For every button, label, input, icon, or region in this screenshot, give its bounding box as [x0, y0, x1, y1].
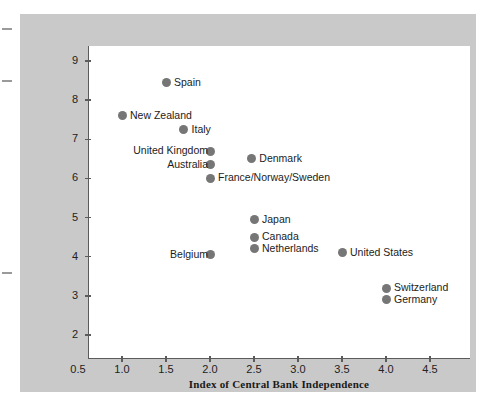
y-axis-tick-mark	[85, 99, 91, 101]
x-axis-tick-mark	[341, 356, 343, 362]
x-axis-title: Index of Central Bank Independence	[88, 378, 470, 390]
y-axis-tick-label: 5	[60, 211, 78, 223]
data-point-label: Belgium	[170, 249, 208, 260]
data-point[interactable]	[206, 174, 215, 183]
x-axis-tick-label: 1.0	[106, 363, 138, 375]
x-axis-tick-mark	[121, 356, 123, 362]
x-axis-tick-label: 4.0	[370, 363, 402, 375]
x-axis-tick-label: 2.5	[238, 363, 270, 375]
chart-figure: Average inflation(percent per year) Inde…	[0, 0, 496, 406]
data-point[interactable]	[250, 215, 259, 224]
data-point[interactable]	[382, 295, 391, 304]
y-axis-tick-label: 7	[60, 132, 78, 144]
page-mark-middle	[2, 80, 12, 82]
data-point-label: Switzerland	[394, 282, 448, 293]
data-point-label: United States	[350, 247, 413, 258]
y-axis-tick-label: 4	[60, 250, 78, 262]
y-axis-tick-mark	[85, 217, 91, 219]
x-axis-tick-mark	[209, 356, 211, 362]
x-axis-tick-label: 1.5	[150, 363, 182, 375]
data-point-label: Japan	[262, 214, 291, 225]
y-axis-tick-label: 6	[60, 171, 78, 183]
data-point[interactable]	[382, 284, 391, 293]
y-axis-tick-label: 9	[60, 54, 78, 66]
data-point[interactable]	[118, 111, 127, 120]
y-axis-tick-mark	[85, 139, 91, 141]
data-point[interactable]	[250, 233, 259, 242]
x-axis-tick-mark	[429, 356, 431, 362]
data-point-label: Italy	[192, 124, 211, 135]
y-axis-tick-mark	[85, 334, 91, 336]
x-axis-tick-label: 0.5	[62, 363, 94, 375]
data-point-label: France/Norway/Sweden	[218, 172, 330, 183]
y-axis-tick-label: 3	[60, 289, 78, 301]
y-axis-tick-mark	[85, 60, 91, 62]
y-axis-tick-label: 2	[60, 328, 78, 340]
chart-panel: Average inflation(percent per year) Inde…	[20, 14, 476, 392]
data-point[interactable]	[250, 244, 259, 253]
data-point[interactable]	[338, 248, 347, 257]
data-point-label: Spain	[174, 77, 201, 88]
x-axis-tick-label: 4.5	[414, 363, 446, 375]
data-point-label: New Zealand	[130, 110, 192, 121]
x-axis-tick-mark	[297, 356, 299, 362]
x-axis-tick-label: 2.0	[194, 363, 226, 375]
x-axis-tick-mark	[385, 356, 387, 362]
data-point-label: Canada	[262, 231, 299, 242]
page-mark-bottom	[2, 272, 12, 274]
data-point-label: United Kingdom	[133, 145, 208, 156]
data-point-label: Australia	[167, 159, 208, 170]
y-axis-tick-label: 8	[60, 93, 78, 105]
x-axis-tick-mark	[253, 356, 255, 362]
data-point-label: Denmark	[259, 153, 302, 164]
x-axis-tick-label: 3.5	[326, 363, 358, 375]
data-point-label: Netherlands	[262, 243, 319, 254]
y-axis-tick-mark	[85, 178, 91, 180]
x-axis-tick-mark	[165, 356, 167, 362]
y-axis-tick-mark	[85, 256, 91, 258]
data-point-label: Germany	[394, 294, 437, 305]
plot-area	[88, 46, 470, 359]
y-axis-tick-mark	[85, 295, 91, 297]
data-point[interactable]	[162, 78, 171, 87]
page-mark-top	[2, 28, 12, 30]
x-axis-tick-label: 3.0	[282, 363, 314, 375]
